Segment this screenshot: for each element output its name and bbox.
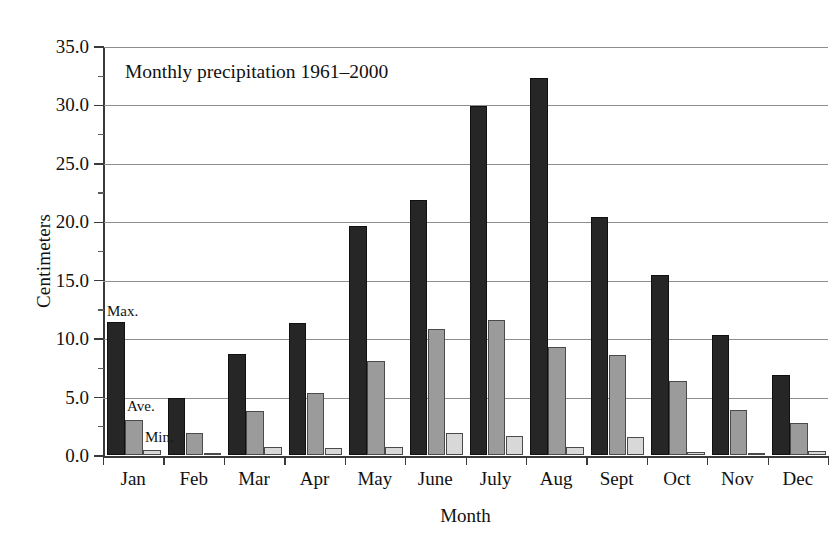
y-tick-major — [94, 222, 104, 223]
y-tick-label: 5.0 — [65, 387, 89, 409]
precipitation-bar-chart: Centimeters 0.05.010.015.020.025.030.035… — [0, 0, 835, 549]
bar-oct-max — [651, 275, 669, 455]
series-annotation-max: Max. — [107, 303, 138, 320]
bar-mar-max — [228, 354, 246, 456]
month-bar-group — [772, 46, 826, 455]
bar-june-min — [446, 433, 464, 455]
bar-dec-max — [772, 375, 790, 456]
month-bar-group — [651, 46, 705, 455]
x-tick — [284, 456, 285, 465]
y-tick-minor — [98, 134, 104, 135]
bar-oct-min — [687, 452, 705, 456]
y-tick-minor — [98, 251, 104, 252]
x-tick-label-dec: Dec — [782, 468, 813, 490]
bar-dec-ave — [790, 423, 808, 456]
x-tick-label-mar: Mar — [238, 468, 270, 490]
bar-july-min — [506, 436, 524, 456]
bar-july-ave — [488, 320, 506, 456]
bar-apr-min — [325, 448, 343, 455]
y-tick-minor — [98, 368, 104, 369]
bar-june-ave — [428, 329, 446, 455]
bar-jan-min — [143, 450, 161, 456]
bar-jan-ave — [125, 420, 143, 455]
x-tick — [103, 456, 104, 465]
month-bar-group — [470, 46, 524, 455]
y-tick-label: 20.0 — [56, 211, 89, 233]
x-tick-label-oct: Oct — [663, 468, 690, 490]
x-tick — [224, 456, 225, 465]
y-tick-label: 15.0 — [56, 270, 89, 292]
x-tick-label-apr: Apr — [300, 468, 330, 490]
x-tick-label-aug: Aug — [540, 468, 573, 490]
x-tick — [466, 456, 467, 465]
chart-title: Monthly precipitation 1961–2000 — [125, 61, 388, 83]
bar-mar-min — [264, 447, 282, 455]
x-tick-label-nov: Nov — [721, 468, 754, 490]
bar-aug-ave — [548, 347, 566, 456]
month-bar-group — [591, 46, 645, 455]
y-tick-major — [94, 280, 104, 281]
x-tick — [163, 456, 164, 465]
bar-june-max — [410, 200, 428, 456]
y-tick-minor — [98, 309, 104, 310]
y-tick-label: 30.0 — [56, 94, 89, 116]
x-tick — [828, 456, 829, 465]
bar-sept-max — [591, 217, 609, 455]
y-tick-minor — [98, 76, 104, 77]
x-tick — [586, 456, 587, 465]
x-tick-label-july: July — [480, 468, 512, 490]
bar-may-max — [349, 226, 367, 455]
x-tick-label-may: May — [357, 468, 392, 490]
y-tick-major — [94, 105, 104, 106]
bar-feb-ave — [186, 433, 204, 455]
series-annotation-min: Min. — [145, 429, 174, 446]
x-tick-label-june: June — [418, 468, 453, 490]
month-bar-group — [410, 46, 464, 455]
y-tick-major — [94, 397, 104, 398]
bar-feb-max — [168, 398, 186, 455]
x-tick — [647, 456, 648, 465]
month-bar-group — [168, 46, 222, 455]
y-tick-label: 10.0 — [56, 328, 89, 350]
x-tick — [405, 456, 406, 465]
bar-mar-ave — [246, 411, 264, 455]
bar-jan-max — [107, 322, 125, 455]
x-tick — [345, 456, 346, 465]
month-bar-group — [228, 46, 282, 455]
bar-feb-min — [204, 453, 222, 455]
bar-dec-min — [808, 451, 826, 456]
bar-nov-max — [712, 335, 730, 455]
bar-nov-min — [748, 453, 766, 455]
y-tick-label: 35.0 — [56, 36, 89, 58]
y-tick-major — [94, 163, 104, 164]
bar-apr-ave — [307, 393, 325, 455]
bar-may-min — [385, 447, 403, 455]
month-bar-group — [712, 46, 766, 455]
x-tick-label-jan: Jan — [121, 468, 146, 490]
bar-apr-max — [289, 323, 307, 455]
bar-aug-max — [530, 78, 548, 455]
bar-oct-ave — [669, 381, 687, 456]
y-axis-title: Centimeters — [33, 131, 55, 391]
y-tick-minor — [98, 426, 104, 427]
x-tick-label-sept: Sept — [600, 468, 634, 490]
bar-aug-min — [566, 447, 584, 455]
y-tick-label: 25.0 — [56, 153, 89, 175]
y-tick-label: 0.0 — [65, 445, 89, 467]
bar-nov-ave — [730, 410, 748, 456]
y-tick-major — [94, 338, 104, 339]
month-bar-group — [107, 46, 161, 455]
month-bar-group — [349, 46, 403, 455]
y-tick-minor — [98, 192, 104, 193]
bar-july-max — [470, 106, 488, 455]
y-tick-major — [94, 46, 104, 47]
bar-may-ave — [367, 361, 385, 456]
series-annotation-ave: Ave. — [127, 398, 155, 415]
bar-sept-min — [627, 437, 645, 456]
x-axis-title: Month — [103, 505, 828, 527]
bar-sept-ave — [609, 355, 627, 455]
x-tick-label-feb: Feb — [179, 468, 208, 490]
month-bar-group — [530, 46, 584, 455]
x-tick — [526, 456, 527, 465]
month-bar-group — [289, 46, 343, 455]
